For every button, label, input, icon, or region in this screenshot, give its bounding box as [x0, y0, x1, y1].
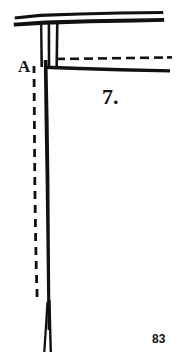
- figure-caption-number: 7.: [102, 86, 119, 108]
- paper-background: [0, 0, 179, 358]
- point-label-a: A: [18, 58, 30, 75]
- post-middle-stroke: [48, 22, 51, 68]
- page-number: 83: [152, 333, 165, 345]
- figure-drawing-canvas: [0, 0, 179, 358]
